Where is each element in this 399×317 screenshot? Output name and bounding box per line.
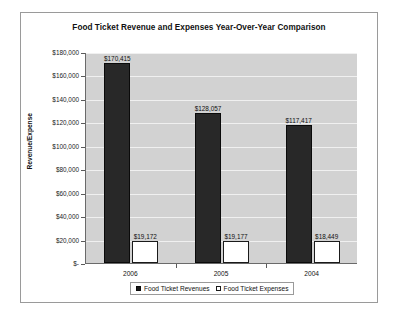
y-axis-tick-label: $60,000 (35, 190, 79, 197)
y-axis-tick-label: $- (35, 260, 79, 267)
bar-revenue (195, 113, 221, 263)
y-axis-tick-label: $20,000 (35, 237, 79, 244)
y-axis-tick-label: $140,000 (35, 96, 79, 103)
x-axis-tick-mark (176, 264, 177, 268)
legend-label-expenses: Food Ticket Expenses (224, 285, 289, 292)
y-axis-tick-mark (81, 264, 85, 265)
bar-expense (132, 241, 158, 263)
bar-value-label: $19,177 (216, 233, 256, 240)
x-axis-tick-mark (266, 264, 267, 268)
legend-swatch-open-icon (216, 286, 221, 291)
legend-swatch-filled-icon (136, 286, 141, 291)
y-axis-tick-label: $160,000 (35, 72, 79, 79)
bar-value-label: $128,057 (188, 105, 228, 112)
x-axis-tick-label: 2006 (110, 270, 150, 277)
bar-expense (314, 241, 340, 263)
x-axis-tick-label: 2005 (201, 270, 241, 277)
bar-value-label: $18,449 (307, 233, 347, 240)
x-axis-tick-label: 2004 (292, 270, 332, 277)
y-axis-tick-label: $100,000 (35, 143, 79, 150)
legend-item-expenses: Food Ticket Expenses (216, 285, 289, 292)
plot-area: $170,415$19,172$128,057$19,177$117,417$1… (85, 53, 357, 264)
legend-item-revenues: Food Ticket Revenues (136, 285, 210, 292)
y-axis-tick-label: $40,000 (35, 213, 79, 220)
y-axis-tick-label: $120,000 (35, 119, 79, 126)
y-axis-tick-label: $80,000 (35, 166, 79, 173)
chart-title: Food Ticket Revenue and Expenses Year-Ov… (21, 23, 377, 32)
chart-frame: Food Ticket Revenue and Expenses Year-Ov… (20, 12, 378, 303)
bar-value-label: $117,417 (279, 117, 319, 124)
gridline (86, 53, 357, 54)
bar-value-label: $19,172 (125, 233, 165, 240)
y-axis-tick-label: $180,000 (35, 49, 79, 56)
chart-screenshot: Food Ticket Revenue and Expenses Year-Ov… (0, 0, 399, 317)
bar-expense (223, 241, 249, 263)
legend-label-revenues: Food Ticket Revenues (144, 285, 210, 292)
bar-revenue (286, 125, 312, 263)
chart-legend: Food Ticket Revenues Food Ticket Expense… (130, 282, 294, 295)
bar-value-label: $170,415 (97, 55, 137, 62)
